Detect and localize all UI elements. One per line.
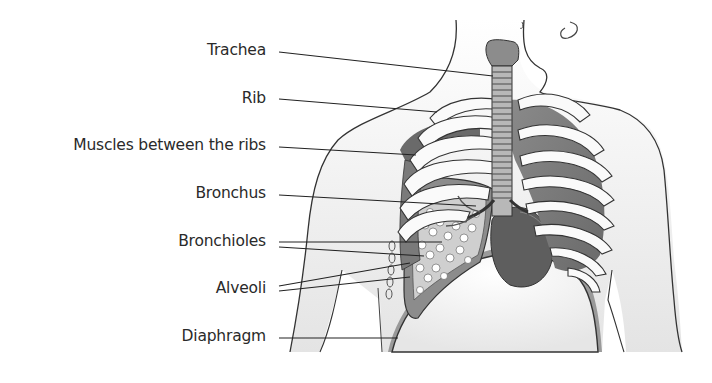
label-muscles-between-ribs: Muscles between the ribs [73,136,266,154]
label-bronchioles: Bronchioles [178,232,266,250]
label-bronchus: Bronchus [195,184,266,202]
torso-illustration [0,0,712,383]
label-alveoli: Alveoli [216,279,266,297]
label-rib: Rib [242,89,266,107]
respiratory-diagram: Trachea Rib Muscles between the ribs Bro… [0,0,712,383]
label-trachea: Trachea [207,41,266,59]
label-diaphragm: Diaphragm [182,327,266,345]
